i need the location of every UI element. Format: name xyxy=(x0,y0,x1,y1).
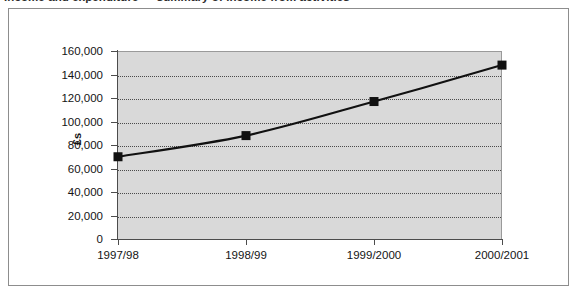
y-tick-mark xyxy=(111,216,118,217)
y-axis-tick-label: 80,000 xyxy=(33,139,103,151)
line-chart: £s 020,00040,00060,00080,000100,000120,0… xyxy=(9,9,570,287)
data-point-marker xyxy=(114,152,123,161)
document-heading-strip: Income and expenditure — summary of inco… xyxy=(0,0,587,7)
data-point-marker xyxy=(498,61,507,70)
y-tick-mark xyxy=(111,192,118,193)
y-axis-tick-label: 20,000 xyxy=(33,210,103,222)
y-axis-tick-label: 0 xyxy=(33,233,103,245)
x-axis-tick-label: 1998/99 xyxy=(186,249,306,262)
y-axis-tick-label: 100,000 xyxy=(33,116,103,128)
y-axis-tick-label: 40,000 xyxy=(33,186,103,198)
document-heading-text: Income and expenditure — summary of inco… xyxy=(4,0,350,3)
y-tick-mark xyxy=(111,239,118,240)
series-line xyxy=(118,65,502,157)
y-axis-tick-label: 60,000 xyxy=(33,163,103,175)
y-axis-tick-label: 120,000 xyxy=(33,92,103,104)
x-axis-tick-label: 1999/2000 xyxy=(314,249,434,262)
y-tick-mark xyxy=(111,75,118,76)
x-axis-line xyxy=(117,239,503,240)
data-point-marker xyxy=(242,131,251,140)
x-axis-tick-label: 1997/98 xyxy=(58,249,178,262)
figure-frame: £s 020,00040,00060,00080,000100,000120,0… xyxy=(8,8,569,286)
y-axis-tick-label: 140,000 xyxy=(33,69,103,81)
y-tick-mark xyxy=(111,145,118,146)
x-tick-mark xyxy=(502,239,503,245)
y-tick-mark xyxy=(111,98,118,99)
data-point-marker xyxy=(370,97,379,106)
series-income xyxy=(118,51,502,239)
x-tick-mark xyxy=(246,239,247,245)
x-tick-mark xyxy=(118,239,119,245)
x-tick-mark xyxy=(374,239,375,245)
x-axis-tick-label: 2000/2001 xyxy=(442,249,562,262)
y-axis-tick-label: 160,000 xyxy=(33,45,103,57)
y-tick-mark xyxy=(111,51,118,52)
y-tick-mark xyxy=(111,169,118,170)
y-tick-mark xyxy=(111,122,118,123)
